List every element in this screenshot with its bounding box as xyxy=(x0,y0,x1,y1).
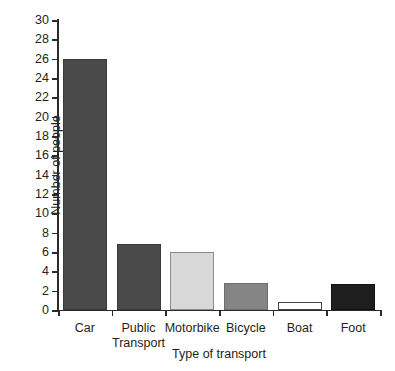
x-axis-tick xyxy=(273,310,275,316)
y-axis-tick-label: 8 xyxy=(42,226,49,239)
y-axis-tick xyxy=(52,78,58,80)
x-axis-tick-label: Boat xyxy=(287,321,313,336)
y-axis-tick xyxy=(52,97,58,99)
y-axis-tick xyxy=(52,136,58,138)
y-axis-tick-label: 0 xyxy=(42,304,49,317)
y-axis-tick xyxy=(52,20,58,22)
y-axis-tick-label: 4 xyxy=(42,265,49,278)
x-axis-tick-label: Motorbike xyxy=(165,321,220,336)
y-axis-tick xyxy=(52,155,58,157)
x-axis-tick-label: Bicycle xyxy=(226,321,266,336)
y-axis-tick-label: 30 xyxy=(35,14,49,27)
bar-boat xyxy=(278,302,322,310)
bar-chart: Number of people 02468101214161820222426… xyxy=(0,0,395,371)
y-axis-tick xyxy=(52,252,58,254)
y-axis-tick-label: 16 xyxy=(35,149,49,162)
x-axis-tick-label: Foot xyxy=(341,321,366,336)
y-axis-tick xyxy=(52,291,58,293)
y-axis-tick xyxy=(52,39,58,41)
y-axis-tick-label: 24 xyxy=(35,72,49,85)
bar-bicycle xyxy=(224,283,268,310)
y-axis-title-container: Number of people xyxy=(0,0,22,330)
y-axis-tick xyxy=(52,271,58,273)
x-axis-tick xyxy=(58,310,60,316)
y-axis-tick xyxy=(52,213,58,215)
y-axis-tick xyxy=(52,175,58,177)
y-axis-tick-label: 6 xyxy=(42,246,49,259)
y-axis-tick xyxy=(52,117,58,119)
y-axis-tick-label: 28 xyxy=(35,33,49,46)
y-axis-tick-label: 10 xyxy=(35,207,49,220)
y-axis-tick-label: 26 xyxy=(35,52,49,65)
x-axis-tick xyxy=(165,310,167,316)
y-axis-tick xyxy=(52,233,58,235)
x-axis-tick xyxy=(112,310,114,316)
bar-foot xyxy=(331,284,375,310)
y-axis-tick-label: 20 xyxy=(35,110,49,123)
x-axis-tick-label: Car xyxy=(75,321,95,336)
y-axis-tick-label: 12 xyxy=(35,188,49,201)
y-axis-tick-label: 2 xyxy=(42,284,49,297)
plot-area: 024681012141618202224262830CarPublic Tra… xyxy=(58,20,380,310)
y-axis-tick-label: 18 xyxy=(35,130,49,143)
x-axis-tick xyxy=(380,310,382,316)
x-axis-tick xyxy=(326,310,328,316)
y-axis-tick-label: 14 xyxy=(35,168,49,181)
x-axis-tick xyxy=(219,310,221,316)
bar-public-transport xyxy=(117,244,161,310)
bar-motorbike xyxy=(170,252,214,310)
y-axis-tick-label: 22 xyxy=(35,91,49,104)
y-axis-tick xyxy=(52,59,58,61)
y-axis-tick xyxy=(52,194,58,196)
bar-car xyxy=(63,59,107,310)
x-axis-title: Type of transport xyxy=(58,347,380,361)
